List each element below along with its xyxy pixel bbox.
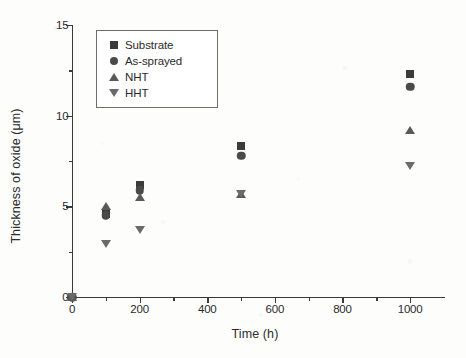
- legend-marker-square-icon: [103, 41, 125, 49]
- legend-item-label: NHT: [125, 71, 148, 83]
- data-point-substrate: [102, 210, 110, 218]
- legend-box: SubstrateAs-sprayedNHTHHT: [96, 30, 218, 108]
- x-tick-label: 600: [266, 303, 285, 315]
- data-point-as-sprayed: [237, 151, 246, 160]
- x-tick-minor: [173, 297, 174, 301]
- data-point-nht: [101, 202, 111, 210]
- y-axis-title: Thickness of oxide (μm): [9, 108, 23, 243]
- legend-marker-triangle-up-icon: [103, 73, 125, 81]
- x-tick-minor: [376, 297, 377, 301]
- legend-item-as-sprayed: As-sprayed: [103, 53, 210, 69]
- data-point-as-sprayed: [102, 211, 111, 220]
- data-point-substrate: [237, 142, 245, 150]
- legend-item-substrate: Substrate: [103, 37, 210, 53]
- data-point-hht: [405, 162, 415, 170]
- x-tick-minor: [106, 297, 107, 301]
- legend-marker-triangle-down-icon: [103, 89, 125, 97]
- x-axis-line: [72, 297, 445, 298]
- legend-item-nht: NHT: [103, 69, 210, 85]
- data-point-nht: [236, 190, 246, 198]
- data-point-hht: [101, 240, 111, 248]
- y-tick-label: 0: [62, 291, 68, 303]
- data-point-nht: [405, 126, 415, 134]
- legend-item-label: HHT: [125, 87, 148, 99]
- data-point-hht: [236, 190, 246, 198]
- y-axis-line: [72, 25, 73, 297]
- x-tick-label: 400: [198, 303, 217, 315]
- x-tick-minor: [241, 297, 242, 301]
- x-tick-minor: [309, 297, 310, 301]
- y-tick-label: 10: [56, 110, 68, 122]
- x-tick-label: 800: [333, 303, 352, 315]
- figure-canvas: Thickness of oxide (μm) Time (h) 0510150…: [0, 0, 466, 358]
- data-point-nht: [135, 193, 145, 201]
- legend-item-label: Substrate: [125, 39, 173, 51]
- x-tick-label: 0: [69, 303, 75, 315]
- legend-item-hht: HHT: [103, 85, 210, 101]
- y-tick-minor: [69, 252, 73, 253]
- legend-item-label: As-sprayed: [125, 55, 182, 67]
- data-point-substrate: [406, 70, 414, 78]
- x-axis-title: Time (h): [232, 327, 279, 341]
- data-point-as-sprayed: [135, 186, 144, 195]
- y-tick-label: 5: [62, 200, 68, 212]
- data-point-hht: [135, 226, 145, 234]
- data-point-as-sprayed: [406, 82, 415, 91]
- y-tick-label: 15: [56, 19, 68, 31]
- data-point-substrate: [136, 181, 144, 189]
- legend-marker-circle-icon: [103, 57, 125, 66]
- y-tick-minor: [69, 70, 73, 71]
- y-tick-minor: [69, 161, 73, 162]
- x-tick-label: 1000: [398, 303, 423, 315]
- x-tick-label: 200: [130, 303, 149, 315]
